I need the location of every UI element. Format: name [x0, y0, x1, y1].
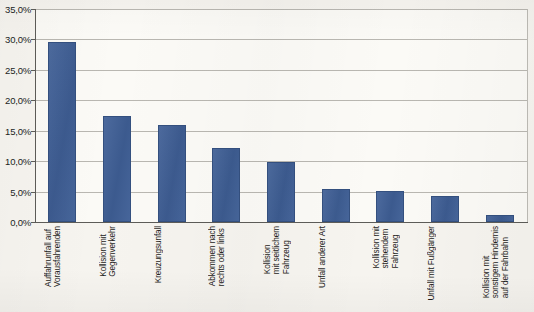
bar	[48, 42, 76, 222]
x-axis-line	[35, 222, 528, 223]
y-axis-tick-mark	[31, 100, 35, 101]
y-axis-tick-label: 35,0%	[0, 4, 31, 15]
y-axis-tick-label: 25,0%	[0, 64, 31, 75]
x-axis-category-label: Kollision mit stehendem Fahrzeug	[372, 226, 408, 268]
x-axis-category-label: Kollision mit sonstigem Hindernis auf de…	[482, 226, 518, 298]
bar	[376, 191, 404, 222]
y-axis-tick-label: 5,0%	[0, 186, 31, 197]
y-axis-tick-mark	[31, 70, 35, 71]
grid-line	[35, 70, 527, 71]
grid-line	[35, 100, 527, 101]
y-axis-tick-label: 20,0%	[0, 95, 31, 106]
x-axis-category-label: Unfall anderer Art	[318, 226, 354, 288]
grid-line	[35, 39, 527, 40]
y-axis-tick-label: 10,0%	[0, 156, 31, 167]
x-axis-category-label: Auffahrunfall auf Vorausfahrenden	[44, 226, 80, 287]
y-axis-tick-label: 0,0%	[0, 217, 31, 228]
y-axis-tick-mark	[31, 39, 35, 40]
x-axis-category-label: Unfall mit Fußgänger	[427, 226, 463, 300]
bar	[103, 116, 131, 223]
y-axis-tick-label: 15,0%	[0, 125, 31, 136]
x-axis-category-label: Abkommen nach rechts oder links	[208, 226, 244, 286]
y-axis-line	[35, 9, 36, 223]
bar-chart: 0,0%5,0%10,0%15,0%20,0%25,0%30,0%35,0% A…	[0, 0, 534, 312]
y-axis-tick-mark	[31, 192, 35, 193]
y-axis-tick-mark	[31, 131, 35, 132]
y-axis-tick-label: 30,0%	[0, 34, 31, 45]
y-axis-tick-mark	[31, 161, 35, 162]
plot-right-border	[527, 9, 528, 223]
x-axis-category-label: Kreuzungsunfall	[154, 226, 190, 283]
y-axis-tick-mark	[31, 222, 35, 223]
bar	[158, 125, 186, 222]
bar	[431, 196, 459, 222]
bar	[212, 148, 240, 222]
grid-line	[35, 9, 527, 10]
y-axis-tick-mark	[31, 9, 35, 10]
bar	[267, 162, 295, 222]
x-axis-category-label: Kollision mit Gegenverkehr	[99, 226, 135, 277]
bar	[486, 215, 514, 222]
x-axis-category-label: Kollision mit seitlichem Fahrzeug	[263, 226, 299, 274]
bar	[322, 189, 350, 222]
